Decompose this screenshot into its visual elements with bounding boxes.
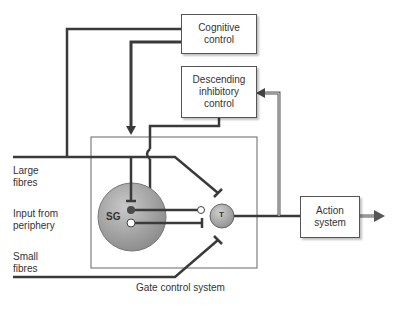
cognitive-label-1: Cognitive [198, 22, 240, 34]
feedback-line [261, 93, 279, 216]
descending-label-3: control [204, 98, 234, 110]
cognitive-control-box: Cognitive control [181, 14, 257, 54]
large-label-1: Large [13, 165, 39, 177]
action-label-1: Action [316, 205, 344, 217]
arrow-down-icon [126, 126, 136, 135]
arrow-left-icon [256, 88, 265, 98]
gate-control-label: Gate control system [136, 282, 225, 294]
cognitive-label-2: control [204, 34, 234, 46]
arrow-right-icon [374, 210, 385, 222]
periphery-label: Input from periphery [13, 208, 58, 232]
descending-control-box: Descending inhibitory control [181, 66, 257, 118]
large-fibres-label: Large fibres [13, 165, 39, 189]
sg-label: SG [106, 211, 120, 222]
sg-excitatory-dot [127, 206, 135, 214]
sg-inhibitory-dot [127, 219, 135, 227]
small-label-1: Small [13, 251, 38, 263]
small-label-2: fibres [13, 263, 38, 275]
large-label-2: fibres [13, 177, 39, 189]
descending-label-1: Descending [193, 74, 246, 86]
t-label: T [219, 210, 224, 219]
periphery-label-2: periphery [13, 220, 58, 232]
action-system-box: Action system [300, 196, 360, 238]
periphery-label-1: Input from [13, 208, 58, 220]
action-label-2: system [314, 217, 346, 229]
descending-label-2: inhibitory [199, 86, 239, 98]
small-fibres-label: Small fibres [13, 251, 38, 275]
cognitive-to-gate-line [131, 42, 181, 127]
